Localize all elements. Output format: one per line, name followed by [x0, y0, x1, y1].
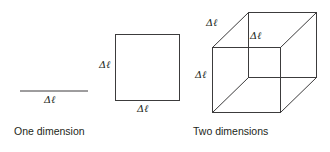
square-height-label: Δℓ — [99, 60, 110, 70]
line-length-label: Δℓ — [44, 95, 55, 105]
caption-one-dimension: One dimension — [14, 126, 85, 137]
cube-depth-label: Δℓ — [206, 18, 217, 28]
cube-width-label: Δℓ — [250, 31, 261, 41]
dimensionality-figure: Δℓ One dimension Δℓ Δℓ Two dimensions Δℓ… — [0, 0, 330, 152]
cube-edge-top-left — [213, 13, 249, 48]
panel-two-dimensions: Δℓ Δℓ Two dimensions — [88, 0, 198, 152]
square-width-label: Δℓ — [137, 104, 148, 114]
square-graphic — [88, 0, 198, 152]
cube-height-label: Δℓ — [195, 70, 206, 80]
cube-edge-bottom-left — [213, 78, 249, 113]
cube-edge-bottom-right — [281, 78, 317, 113]
panel-three-dimensions: Δℓ Δℓ Δℓ Three dimensions — [190, 0, 330, 152]
cube-edge-top-right — [281, 13, 317, 48]
square-shape — [116, 35, 180, 101]
